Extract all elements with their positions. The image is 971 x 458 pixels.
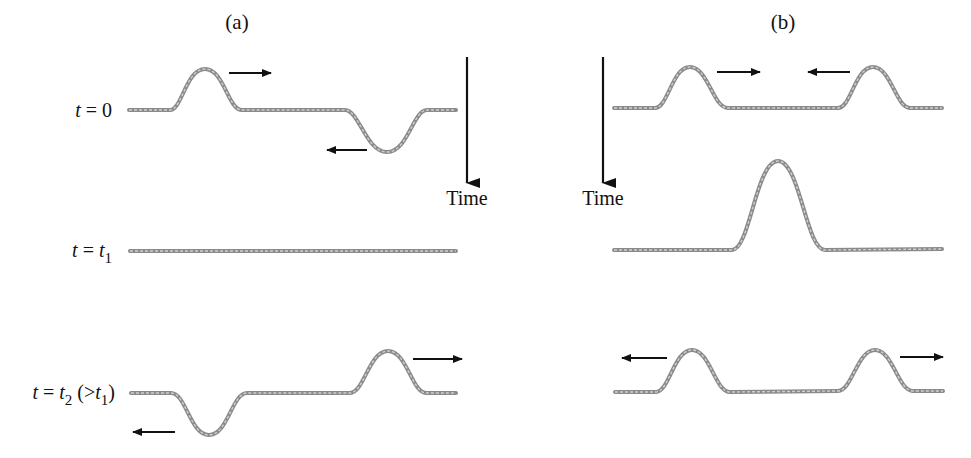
wave-superposition-diagram: (a) (b) t = 0 t = t1 t = t2 (>t1) Time T… [0,0,971,458]
panel-b-title: (b) [771,10,796,34]
row-label-t2: t = t2 (>t1) [32,381,115,408]
panel-b-row2-string [614,161,942,250]
panel-b-time-label: Time [582,187,624,209]
panel-a-row1-string [129,69,456,152]
panel-a-row3-string [131,351,456,435]
row-label-t0: t = 0 [75,99,112,121]
panel-a-time-label: Time [446,187,488,209]
row-label-t1: t = t1 [72,239,112,266]
panel-a-title: (a) [225,10,248,34]
panel-b-row1-string [614,67,942,108]
panel-b-row3-string [615,350,943,392]
